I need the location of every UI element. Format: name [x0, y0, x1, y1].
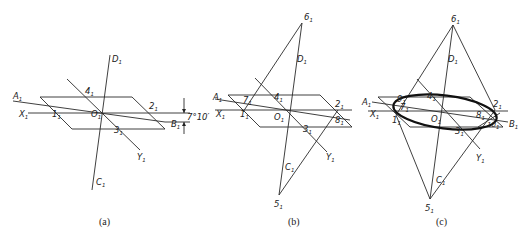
- label-1-b: 11: [240, 109, 249, 120]
- label-3-b: 31: [303, 124, 312, 135]
- label-d1-a: D1: [112, 54, 122, 65]
- label-y1-c: Y1: [476, 153, 485, 164]
- label-d1-b: D1: [297, 54, 307, 65]
- label-o1-b: O1: [274, 112, 284, 123]
- label-4-a: 41: [85, 86, 94, 97]
- caption-a: (a): [99, 216, 110, 228]
- label-a1-b: A1: [212, 92, 222, 103]
- panel-a: A1 X1 11 O1 41 21 31 B1 Y1 D1 C1 7°10′ (…: [12, 54, 209, 228]
- angle-annotation: 7°10′: [187, 112, 209, 122]
- panel-c: 61 D1 41 91 A1 71 X1 11 O1 21 81 101 B1 …: [361, 14, 518, 228]
- label-o1-c: O1: [431, 114, 441, 125]
- line-6-1-b: [243, 23, 302, 112]
- label-d1-c: D1: [448, 54, 458, 65]
- label-8-c: 81: [476, 110, 485, 121]
- label-c1-a: C1: [96, 177, 105, 188]
- line-5-1-c: [396, 115, 430, 199]
- caption-c: (c): [436, 216, 447, 228]
- label-2-a: 21: [149, 101, 158, 112]
- label-7-c: 71: [400, 102, 409, 113]
- arrowhead-up-icon: [182, 122, 186, 126]
- label-y1-b: Y1: [326, 152, 335, 163]
- label-5-b: 51: [274, 199, 283, 210]
- label-1-a: 11: [52, 109, 61, 120]
- label-4-c: 41: [427, 91, 436, 102]
- label-c1-b: C1: [285, 162, 294, 173]
- label-7-b: 71: [243, 95, 252, 106]
- label-5-c: 51: [425, 203, 434, 214]
- axis-y-a: [67, 79, 140, 150]
- line-ab-a: [13, 101, 165, 122]
- construction-diagram: A1 X1 11 O1 41 21 31 B1 Y1 D1 C1 7°10′ (…: [0, 0, 527, 239]
- label-3-c: 31: [455, 126, 464, 137]
- label-b1-c: B1: [509, 119, 518, 130]
- label-a1-c: A1: [361, 97, 371, 108]
- label-4-b: 41: [274, 92, 283, 103]
- axis-y-c: [417, 79, 480, 149]
- label-2-b: 21: [335, 99, 344, 110]
- panel-b: 61 D1 41 A1 71 X1 11 O1 21 81 31 Y1 C1 5…: [212, 12, 352, 228]
- label-8-b: 81: [335, 115, 344, 126]
- label-6-b: 61: [304, 12, 313, 23]
- label-y1-a: Y1: [137, 152, 146, 163]
- label-6-c: 61: [451, 14, 460, 25]
- arrowhead-down-icon: [182, 109, 186, 113]
- label-3-a: 31: [114, 125, 123, 136]
- label-2-c: 21: [493, 99, 502, 110]
- axis-dc-a: [92, 55, 110, 190]
- label-x1-a: X1: [18, 109, 28, 120]
- label-a1-a: A1: [12, 91, 22, 102]
- label-c1-c: C1: [436, 175, 445, 186]
- label-b1-a: B1: [171, 119, 180, 130]
- label-x1-b: X1: [215, 109, 225, 120]
- caption-b: (b): [288, 216, 300, 228]
